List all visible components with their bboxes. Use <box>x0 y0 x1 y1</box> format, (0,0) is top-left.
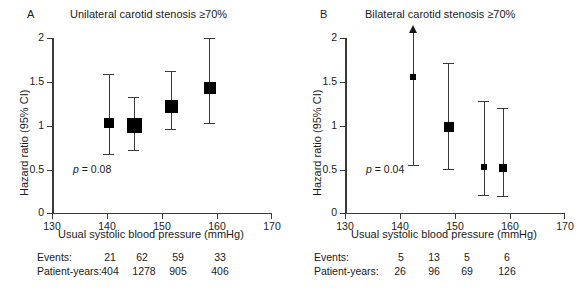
panel-b-ytick-label-0: 0 <box>305 206 337 218</box>
panel-a-ytick-1 <box>47 126 52 127</box>
panel-b-xtick-label-150: 150 <box>435 220 475 232</box>
panel-a-marker-2 <box>127 118 142 133</box>
panel-b-xtick-label-170: 170 <box>545 220 585 232</box>
panel-b-ci-cap-lower-1 <box>408 165 419 166</box>
panel-b-ytick-label-0.5: 0.5 <box>305 163 337 175</box>
panel-b-ytick-label-1: 1 <box>305 119 337 131</box>
panel-b-y-axis <box>345 38 347 214</box>
panel-a-patient-years-label: Patient-years: <box>37 265 102 277</box>
panel-a-ci-cap-upper-2 <box>128 97 139 98</box>
panel-b-events-label: Events: <box>314 251 349 263</box>
panel-b-ci-cap-lower-3 <box>478 195 489 196</box>
panel-a-ci-cap-lower-2 <box>128 150 139 151</box>
panel-b-ytick-0.5 <box>340 170 345 171</box>
panel-b: B Bilateral carotid stenosis ≥70% Hazard… <box>293 0 585 296</box>
panel-b-ytick-label-1.5: 1.5 <box>305 75 337 87</box>
panel-a-ytick-2 <box>47 38 52 39</box>
panel-b-ytick-1 <box>340 126 345 127</box>
panel-a-xtick-label-140: 140 <box>87 220 127 232</box>
panel-b-ci-cap-lower-2 <box>443 169 454 170</box>
panel-b-patient-years-label: Patient-years: <box>314 265 379 277</box>
panel-b-xtick-label-160: 160 <box>490 220 530 232</box>
panel-b-patient-years-value-3: 69 <box>450 265 484 277</box>
panel-b-patient-years-value-2: 96 <box>417 265 451 277</box>
panel-a-ci-cap-lower-3 <box>165 129 176 130</box>
panel-a-y-axis <box>52 38 54 214</box>
panel-a-patient-years-value-4: 406 <box>205 265 235 277</box>
panel-b-p-value: p = 0.04 <box>366 163 404 175</box>
panel-a-ci-cap-lower-4 <box>204 123 215 124</box>
panel-b-ci-line-4 <box>503 108 504 197</box>
panel-b-ci-line-1 <box>413 33 414 166</box>
panel-b-xtick-150 <box>455 214 456 219</box>
panel-b-patient-years-value-1: 26 <box>383 265 417 277</box>
panel-a-ci-cap-lower-1 <box>103 154 114 155</box>
panel-a-ytick-label-1: 1 <box>12 119 44 131</box>
figure-forest-plots: A Unilateral carotid stenosis ≥70% Hazar… <box>0 0 585 296</box>
panel-a-events-label: Events: <box>37 251 72 263</box>
panel-a-ytick-0.5 <box>47 170 52 171</box>
panel-b-events-value-3: 5 <box>452 251 482 263</box>
panel-a-marker-1 <box>104 118 114 128</box>
panel-a: A Unilateral carotid stenosis ≥70% Hazar… <box>0 0 292 296</box>
panel-b-ci-cap-upper-4 <box>497 108 508 109</box>
panel-b-patient-years-value-4: 126 <box>490 265 524 277</box>
panel-a-xtick-140 <box>107 214 108 219</box>
panel-a-ci-cap-upper-3 <box>165 71 176 72</box>
panel-b-ci-cap-upper-3 <box>478 101 489 102</box>
panel-b-ci-upper-arrow-icon <box>409 25 417 33</box>
panel-a-ci-line-1 <box>109 74 110 156</box>
panel-b-marker-2 <box>444 122 454 132</box>
panel-a-ytick-label-2: 2 <box>12 31 44 43</box>
panel-b-marker-3 <box>481 164 487 170</box>
panel-b-ytick-1.5 <box>340 82 345 83</box>
panel-a-xtick-130 <box>52 214 53 219</box>
panel-b-xtick-170 <box>564 214 565 219</box>
panel-a-ytick-label-0.5: 0.5 <box>12 163 44 175</box>
panel-a-events-value-3: 59 <box>163 251 193 263</box>
panel-a-patient-years-value-3: 905 <box>163 265 193 277</box>
panel-b-events-value-1: 5 <box>386 251 416 263</box>
panel-b-ytick-2 <box>340 38 345 39</box>
panel-a-ci-cap-upper-4 <box>204 38 215 39</box>
panel-a-marker-3 <box>165 100 178 113</box>
panel-b-ytick-label-2: 2 <box>305 31 337 43</box>
panel-a-events-value-1: 21 <box>95 251 125 263</box>
panel-a-ci-line-4 <box>209 38 210 124</box>
panel-a-xtick-label-130: 130 <box>32 220 72 232</box>
panel-a-xtick-label-160: 160 <box>197 220 237 232</box>
panel-a-patient-years-value-1: 404 <box>95 265 125 277</box>
panel-a-marker-4 <box>204 82 216 94</box>
panel-b-ci-line-3 <box>484 101 485 196</box>
panel-b-ci-cap-upper-2 <box>443 63 454 64</box>
panel-a-events-value-4: 33 <box>205 251 235 263</box>
panel-a-xtick-170 <box>271 214 272 219</box>
panel-b-marker-4 <box>499 164 507 172</box>
panel-a-ytick-1.5 <box>47 82 52 83</box>
panel-b-xtick-label-140: 140 <box>380 220 420 232</box>
panel-b-xtick-160 <box>510 214 511 219</box>
panel-b-ci-cap-lower-4 <box>497 196 508 197</box>
panel-a-p-value: p = 0.08 <box>73 163 111 175</box>
panel-a-xtick-150 <box>162 214 163 219</box>
panel-b-xtick-130 <box>345 214 346 219</box>
panel-a-events-value-2: 62 <box>127 251 157 263</box>
panel-a-patient-years-value-2: 1278 <box>126 265 162 277</box>
panel-a-xtick-label-170: 170 <box>252 220 292 232</box>
panel-b-events-value-2: 13 <box>419 251 449 263</box>
panel-a-ci-cap-upper-1 <box>103 74 114 75</box>
panel-a-xtick-160 <box>217 214 218 219</box>
panel-b-events-value-4: 6 <box>492 251 522 263</box>
panel-a-ytick-label-1.5: 1.5 <box>12 75 44 87</box>
panel-a-xtick-label-150: 150 <box>142 220 182 232</box>
panel-b-xtick-140 <box>400 214 401 219</box>
panel-b-marker-1 <box>410 74 416 80</box>
panel-b-ci-line-2 <box>448 63 449 170</box>
panel-a-ytick-label-0: 0 <box>12 206 44 218</box>
panel-b-xtick-label-130: 130 <box>325 220 365 232</box>
